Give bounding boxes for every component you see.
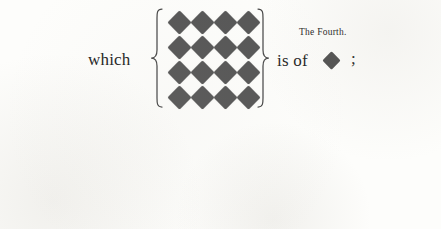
diamond-icon xyxy=(213,85,237,109)
diamond-cell xyxy=(168,85,190,110)
diamond-array xyxy=(168,10,259,110)
diamond-cell xyxy=(191,85,213,110)
diamond-icon xyxy=(167,35,191,59)
right-brace-icon xyxy=(256,8,270,108)
diamond-icon xyxy=(190,60,214,84)
lead-word-which: which xyxy=(88,51,131,68)
diamond-cell xyxy=(214,10,236,35)
diamond-cell xyxy=(214,60,236,85)
single-diamond-icon xyxy=(322,51,340,69)
diamond-icon xyxy=(190,10,214,34)
diamond-icon xyxy=(167,10,191,34)
diamond-icon xyxy=(167,85,191,109)
lower-row: becaufe xyxy=(0,116,441,229)
figure-sheet: which xyxy=(0,0,441,229)
left-brace-icon xyxy=(150,8,164,108)
diamond-icon xyxy=(213,10,237,34)
diamond-cell xyxy=(214,35,236,60)
diamond-icon xyxy=(190,35,214,59)
diamond-cell xyxy=(168,60,190,85)
diamond-icon xyxy=(167,60,191,84)
diamond-icon xyxy=(213,35,237,59)
diamond-cell xyxy=(191,35,213,60)
diamond-cell xyxy=(168,35,190,60)
diamond-cell xyxy=(168,10,190,35)
terminator-semicolon: ; xyxy=(351,50,356,67)
diamond-cell xyxy=(214,85,236,110)
diamond-icon xyxy=(213,60,237,84)
diamond-cell xyxy=(191,10,213,35)
caption-the-fourth: The Fourth. xyxy=(299,27,347,37)
upper-row: which xyxy=(0,0,441,116)
diamond-cell xyxy=(191,60,213,85)
relation-is-of: is of xyxy=(277,52,308,69)
diamond-icon xyxy=(190,85,214,109)
